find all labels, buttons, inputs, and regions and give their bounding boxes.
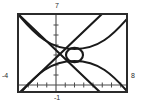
window-label-xmin: -4 — [2, 72, 8, 80]
window-label-ymax: 7 — [55, 2, 59, 10]
graphing-calculator-screenshot: 7 -1 -4 8 — [0, 0, 143, 108]
hyperbola-curves — [19, 15, 128, 93]
window-label-xmax: 8 — [131, 72, 135, 80]
hyperbola-upper-branch — [19, 15, 128, 49]
plot-canvas — [19, 15, 128, 93]
calculator-viewing-window — [17, 13, 128, 93]
axes-group — [19, 15, 128, 93]
window-label-ymin: -1 — [54, 94, 60, 102]
